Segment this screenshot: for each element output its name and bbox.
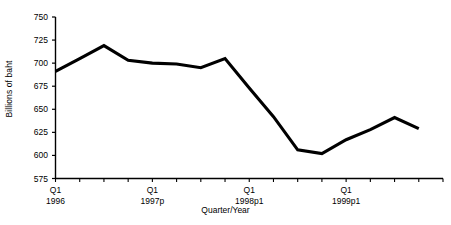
- x-axis-tick-label-quarter: Q1: [141, 185, 165, 196]
- line-chart: Billions of baht 75072570067565062560057…: [0, 0, 451, 225]
- x-axis-tick-label-quarter: Q1: [332, 185, 360, 196]
- x-axis-title: Quarter/Year: [0, 205, 451, 215]
- x-axis-tick-label-group: Q11997p: [141, 185, 165, 207]
- x-axis-tick-label-group: Q11998p1: [235, 185, 263, 207]
- x-axis-tick-label-quarter: Q1: [46, 185, 65, 196]
- x-axis-tick-label-quarter: Q1: [235, 185, 263, 196]
- x-axis-tick-labels: Q11996Q11997pQ11998p1Q11999p1: [0, 0, 451, 225]
- x-axis-tick-label-group: Q11996: [46, 185, 65, 207]
- x-axis-tick-label-group: Q11999p1: [332, 185, 360, 207]
